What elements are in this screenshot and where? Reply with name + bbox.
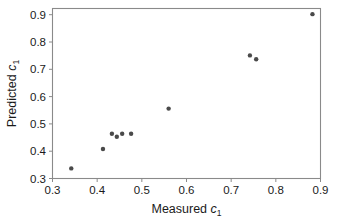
plot-frame [53,9,321,179]
data-point [166,106,170,110]
y-axis-title-text: Predicted c1 [5,60,21,128]
y-tick-label: 0.4 [30,145,47,157]
y-tick-label: 0.7 [30,63,46,75]
x-axis-title-text: Measured c1 [151,202,221,218]
plot-canvas: 0.30.40.50.60.70.80.9 0.30.40.50.60.70.8… [0,0,341,224]
data-points [69,12,315,171]
y-tick-label: 0.3 [30,173,46,185]
scatter-plot-figure: 0.30.40.50.60.70.80.9 0.30.40.50.60.70.8… [0,0,341,224]
data-point [115,135,119,139]
x-tick-label: 0.5 [134,184,150,196]
data-point [69,166,73,170]
x-tick-label: 0.3 [45,184,61,196]
x-axis-title: Measured c1 [151,202,221,218]
x-tick-label: 0.4 [89,184,106,196]
y-tick-label: 0.8 [30,36,46,48]
data-point [110,132,114,136]
x-axis-tick-labels: 0.30.40.50.60.70.80.9 [45,184,329,196]
y-axis-tick-labels: 0.30.40.50.60.70.80.9 [30,9,47,185]
y-axis-title: Predicted c1 [5,60,21,128]
x-tick-label: 0.6 [179,184,195,196]
data-point [129,132,133,136]
data-point [248,53,252,57]
axes-frame [53,9,321,179]
data-point [310,12,314,16]
x-tick-label: 0.7 [223,184,239,196]
data-point [101,147,105,151]
y-tick-label: 0.9 [30,9,46,21]
y-tick-label: 0.6 [30,91,46,103]
data-point [254,57,258,61]
x-tick-label: 0.9 [313,184,329,196]
x-tick-label: 0.8 [268,184,284,196]
y-tick-label: 0.5 [30,118,46,130]
data-point [120,132,124,136]
